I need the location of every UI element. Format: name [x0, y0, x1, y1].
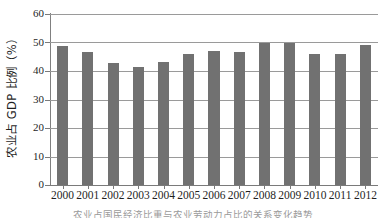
bar[interactable] — [108, 63, 119, 185]
x-axis-tick-label: 2009 — [277, 189, 302, 202]
x-axis-tick-label: 2008 — [252, 189, 277, 202]
bar[interactable] — [360, 45, 371, 186]
bar[interactable] — [57, 46, 68, 185]
x-axis-tick-label: 2003 — [126, 189, 151, 202]
y-axis-tick-mark — [45, 185, 50, 186]
y-axis-tick-mark — [45, 14, 50, 15]
y-axis-tick-label: 30 — [0, 94, 44, 105]
y-axis-tick-mark — [45, 157, 50, 158]
x-axis-tick-label: 2007 — [227, 189, 252, 202]
x-axis-tick-label: 2005 — [176, 189, 201, 202]
x-axis-tick-label: 2001 — [75, 189, 100, 202]
x-axis-tick-label: 2011 — [328, 189, 353, 202]
bar[interactable] — [82, 52, 93, 185]
bar[interactable] — [183, 54, 194, 185]
plot-area — [50, 14, 378, 185]
figure-caption: 农业占国民经济比重与农业劳动力占比的关系变化趋势 — [0, 210, 385, 218]
x-axis-tick-labels: 2000200120022003200420052006200720082009… — [50, 186, 378, 202]
bar[interactable] — [309, 54, 320, 185]
x-axis-tick-label: 2004 — [151, 189, 176, 202]
x-axis-tick-label: 2000 — [50, 189, 75, 202]
bar-series — [50, 14, 378, 185]
y-axis-tick-mark — [45, 100, 50, 101]
bar[interactable] — [335, 54, 346, 185]
y-axis-tick-label: 60 — [0, 8, 44, 19]
bar[interactable] — [208, 51, 219, 185]
bar[interactable] — [234, 52, 245, 185]
y-axis-tick-mark — [45, 128, 50, 129]
y-axis-tick-mark — [45, 71, 50, 72]
bar[interactable] — [284, 43, 295, 185]
y-axis-tick-label: 0 — [0, 179, 44, 190]
y-axis-tick-label: 20 — [0, 122, 44, 133]
y-axis-tick-label: 40 — [0, 65, 44, 76]
y-axis-tick-labels: 0102030405060 — [0, 0, 48, 218]
y-axis-tick-mark — [45, 42, 50, 43]
x-axis-tick-label: 2006 — [201, 189, 226, 202]
bar[interactable] — [133, 67, 144, 185]
x-axis-tick-label: 2012 — [353, 189, 378, 202]
bar[interactable] — [158, 62, 169, 185]
y-axis-tick-label: 50 — [0, 37, 44, 48]
x-axis-tick-label: 2010 — [302, 189, 327, 202]
x-axis-tick-label: 2002 — [100, 189, 125, 202]
bar[interactable] — [259, 43, 270, 185]
y-axis-tick-label: 10 — [0, 151, 44, 162]
bar-chart-figure: 农业占 GDP 比例（%） 0102030405060 200020012002… — [0, 0, 385, 218]
